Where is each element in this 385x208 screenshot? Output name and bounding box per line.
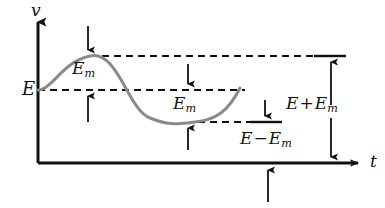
difference-term-two-base: E [269,128,281,148]
amplitude-label-upper: Em [72,60,95,79]
plus-sign: + [299,93,313,113]
amplitude-lower-base: E [173,93,185,113]
difference-level-label: E−Em [240,130,292,149]
difference-term-one: E [240,128,252,148]
sum-term-two-subscript: m [327,102,338,115]
sum-term-two-base: E [315,93,327,113]
amplitude-lower-subscript: m [186,102,197,115]
difference-term-two-subscript: m [281,137,292,150]
y-axis-label: v [31,2,41,19]
amplitude-upper-subscript: m [85,67,96,80]
sum-dimension-label: E+Em [286,95,338,114]
minus-sign: − [253,128,267,148]
amplitude-upper-base: E [72,58,84,78]
bias-level-label: E [22,80,35,98]
voltage-waveform-figure: v t E Em Em E−Em E+Em [0,0,385,208]
sum-term-one: E [286,93,298,113]
amplitude-label-lower: Em [173,95,196,114]
x-axis-label: t [370,153,377,170]
